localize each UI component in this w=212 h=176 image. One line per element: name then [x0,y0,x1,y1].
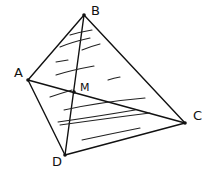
segment-da [28,80,65,155]
label-a: A [14,66,23,79]
segment-cd [65,123,185,155]
segment-ac [28,80,185,123]
diagram-canvas [0,0,212,176]
segment-bc [84,15,185,123]
label-b: B [91,4,100,17]
face-hatching [50,30,150,140]
label-c: C [193,109,202,122]
tetrahedron-diagram: B A M C D [0,0,212,176]
label-d: D [52,155,62,168]
label-m: M [80,82,90,93]
